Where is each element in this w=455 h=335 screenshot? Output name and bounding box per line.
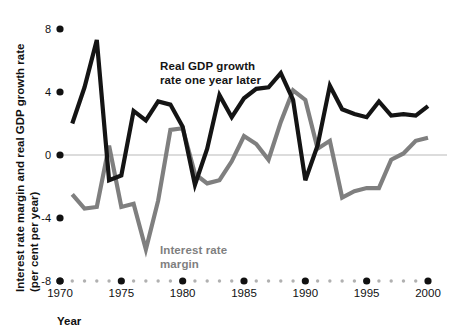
x-minor-tick-dot — [267, 279, 270, 282]
margin-label-line1: Interest rate — [160, 244, 227, 256]
y-tick-label: 8 — [45, 23, 51, 35]
chart-container: 840-4-8 1970197519801985199019952000 Rea… — [0, 0, 455, 335]
y-tick-label: -4 — [41, 212, 51, 224]
x-minor-tick-dot — [316, 279, 319, 282]
x-major-tick-dot — [363, 277, 370, 284]
x-minor-tick-dot — [255, 279, 258, 282]
x-major-tick-dot — [118, 277, 125, 284]
x-major-tick-dot — [302, 277, 309, 284]
line-chart: 840-4-8 1970197519801985199019952000 Rea… — [0, 0, 455, 335]
x-major-tick-dot — [424, 277, 431, 284]
x-minor-tick-dot — [156, 279, 159, 282]
x-minor-tick-dot — [328, 279, 331, 282]
y-tick-dot — [56, 214, 63, 221]
x-tick-label: 1980 — [170, 287, 196, 299]
y-tick-label: 4 — [45, 86, 51, 98]
x-minor-tick-dot — [279, 279, 282, 282]
x-minor-tick-dot — [340, 279, 343, 282]
y-axis-title-line1: Interest rate margin and real GDP growth… — [14, 44, 26, 292]
gdp-label-line2: rate one year later — [160, 74, 261, 86]
x-minor-tick-dot — [414, 279, 417, 282]
x-minor-tick-dot — [377, 279, 380, 282]
gdp-label-line1: Real GDP growth — [160, 60, 255, 72]
y-tick-dot — [56, 151, 63, 158]
x-tick-label: 1970 — [47, 287, 73, 299]
y-tick-label: 0 — [45, 149, 51, 161]
x-minor-tick-dot — [193, 279, 196, 282]
x-minor-tick-dot — [402, 279, 405, 282]
x-axis-title: Year — [57, 315, 82, 327]
x-major-tick-dot — [179, 277, 186, 284]
x-minor-tick-dot — [95, 279, 98, 282]
y-tick-label: -8 — [41, 275, 51, 287]
x-minor-tick-dot — [218, 279, 221, 282]
margin-label-line2: margin — [160, 258, 199, 270]
x-minor-tick-dot — [353, 279, 356, 282]
x-minor-tick-dot — [107, 279, 110, 282]
y-axis-title-line2: (per cent per year) — [28, 191, 40, 292]
x-minor-tick-dot — [291, 279, 294, 282]
x-minor-tick-dot — [230, 279, 233, 282]
x-major-tick-dot — [240, 277, 247, 284]
x-major-tick-dot — [56, 277, 63, 284]
x-tick-label: 1990 — [293, 287, 319, 299]
y-tick-dot — [56, 88, 63, 95]
x-minor-tick-dot — [132, 279, 135, 282]
y-tick-dot — [56, 25, 63, 32]
x-minor-tick-dot — [169, 279, 172, 282]
x-minor-tick-dot — [83, 279, 86, 282]
x-minor-tick-dot — [71, 279, 74, 282]
x-tick-label: 2000 — [415, 287, 441, 299]
x-minor-tick-dot — [390, 279, 393, 282]
x-tick-label: 1975 — [109, 287, 135, 299]
x-tick-label: 1985 — [231, 287, 257, 299]
x-minor-tick-dot — [144, 279, 147, 282]
x-tick-label: 1995 — [354, 287, 380, 299]
x-minor-tick-dot — [206, 279, 209, 282]
